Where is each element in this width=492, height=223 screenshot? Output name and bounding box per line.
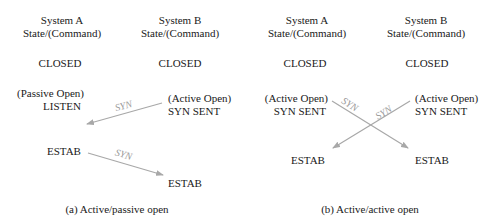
arrow-syn-b-to-a: SYN <box>87 98 162 124</box>
syn-label: SYN <box>114 98 135 113</box>
arrows-layer: SYN SYN SYN SYN <box>0 0 492 223</box>
arrow-syn-b-to-a-cross: SYN <box>333 101 410 148</box>
syn-label: SYN <box>340 95 362 114</box>
arrow-syn-a-to-b: SYN <box>88 147 163 175</box>
arrow-syn-a-to-b-cross: SYN <box>332 95 408 148</box>
syn-label: SYN <box>373 102 395 121</box>
syn-label: SYN <box>114 147 135 163</box>
